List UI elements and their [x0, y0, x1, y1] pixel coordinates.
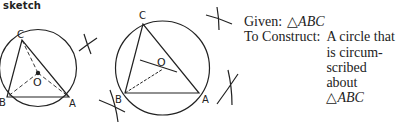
right-arc-mark-right: [217, 70, 238, 105]
construct-value: ABC: [337, 90, 363, 105]
right-label-o: O: [157, 56, 166, 69]
given-value: ABC: [298, 14, 324, 29]
construct-triangle-line: △ABC: [326, 90, 394, 105]
construct-label: To Construct:: [244, 29, 320, 105]
left-label-b: B: [0, 97, 6, 108]
left-figure: [0, 30, 97, 107]
triangle-symbol: △: [287, 14, 298, 29]
left-label-o: O: [33, 76, 42, 89]
construct-line: A circle that: [326, 29, 394, 44]
construct-line: scribed: [326, 60, 394, 75]
construct-description: A circle that is circum- scribed about △…: [326, 29, 394, 105]
left-label-c: C: [17, 29, 24, 40]
left-label-a: A: [69, 98, 76, 109]
construct-row: To Construct: A circle that is circum- s…: [244, 29, 395, 105]
right-arc-mark-top: [206, 7, 232, 30]
right-label-a: A: [202, 94, 209, 105]
construction-text: Given: △ ABC To Construct: A circle that…: [244, 14, 395, 106]
triangle-symbol: △: [326, 90, 337, 105]
given-row: Given: △ ABC: [244, 14, 395, 29]
construct-line: about: [326, 75, 394, 90]
given-label: Given:: [244, 14, 282, 29]
right-label-c: C: [139, 10, 146, 21]
left-circumcircle: [0, 30, 77, 107]
construct-line: is circum-: [326, 45, 394, 60]
right-label-b: B: [115, 94, 122, 105]
left-construction-arc-mark: [79, 34, 97, 54]
left-center-point: [36, 71, 39, 74]
